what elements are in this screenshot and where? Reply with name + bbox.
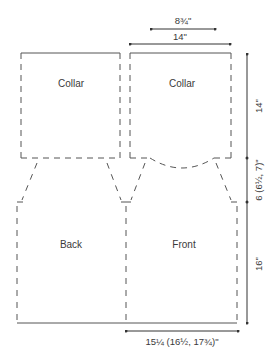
yoke-height-label: 6 (6½, 7)" [253, 159, 264, 200]
collar-back-piece [21, 53, 120, 158]
body-pieces [17, 206, 237, 323]
collar-back-label: Collar [58, 78, 85, 89]
collar-front-label: Collar [169, 78, 196, 89]
collar-width-label: 14" [173, 31, 187, 42]
front-label: Front [172, 239, 196, 250]
schematic-diagram: Collar Collar Back Front 8¾" 14" 14" 6 (… [0, 0, 278, 363]
body-width-label: 15¼ (16½, 17¾)" [145, 336, 218, 347]
neck-width-label: 8¾" [175, 15, 192, 26]
back-yoke-outline [22, 163, 231, 200]
body-height-label: 16" [253, 257, 264, 271]
back-label: Back [60, 239, 83, 250]
collar-height-label: 14" [253, 99, 264, 113]
collar-front-piece [130, 53, 231, 168]
